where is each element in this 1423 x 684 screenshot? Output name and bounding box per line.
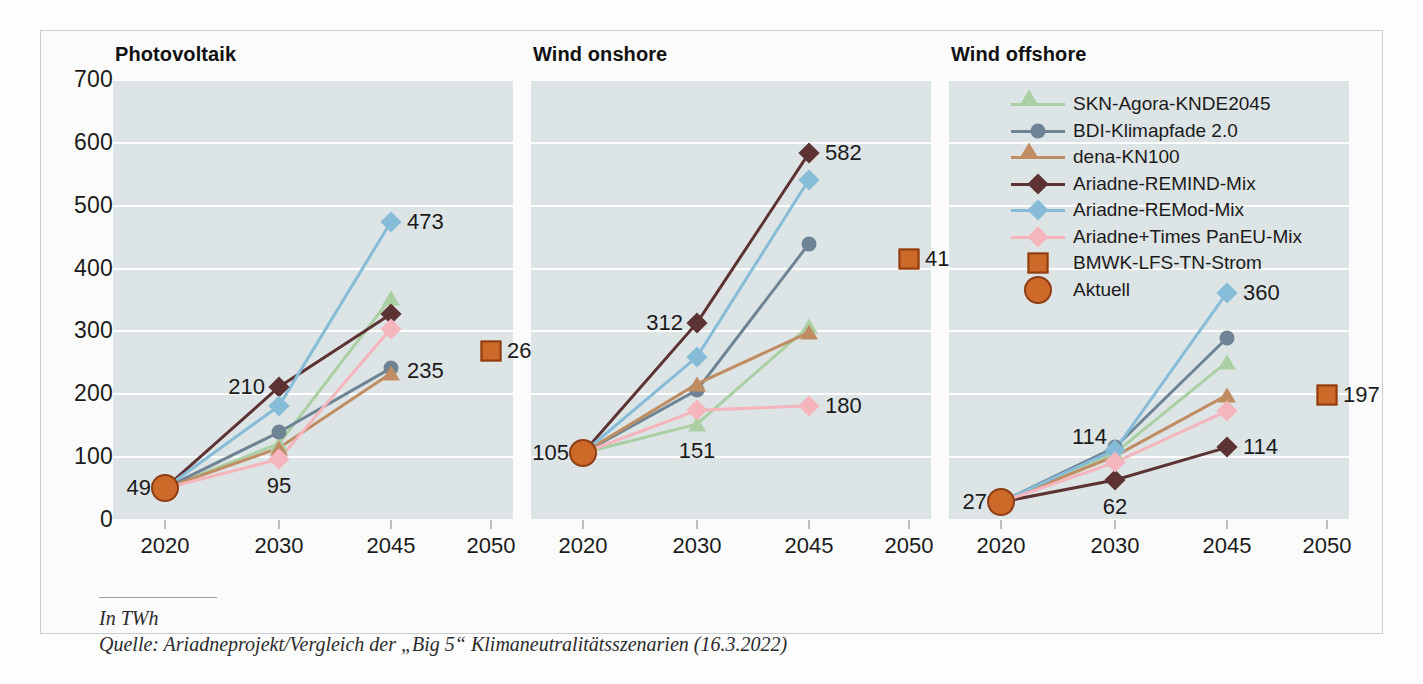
legend-key	[1009, 227, 1067, 247]
x-axis-tickmark	[582, 520, 584, 529]
legend-item-7[interactable]: Aktuell	[1009, 277, 1339, 304]
data-point-triangle	[1218, 354, 1236, 369]
data-point-square	[899, 249, 920, 270]
legend-key	[1009, 174, 1067, 194]
x-axis-tickmark	[1114, 520, 1116, 529]
x-axis-tickmark	[808, 520, 810, 529]
legend: SKN-Agora-KNDE2045BDI-Klimapfade 2.0dena…	[1009, 91, 1339, 303]
data-label: 105	[532, 440, 569, 466]
legend-key	[1009, 280, 1067, 300]
chart-panel-0: Photovoltaik4921095473235268202020302045…	[113, 31, 513, 633]
legend-label: Ariadne-REMIND-Mix	[1067, 173, 1256, 195]
x-axis-tick: 2030	[255, 533, 304, 559]
data-point-square	[1028, 253, 1049, 274]
data-label: 197	[1343, 382, 1380, 408]
legend-item-3[interactable]: Ariadne-REMIND-Mix	[1009, 171, 1339, 198]
legend-key	[1009, 253, 1067, 273]
data-point-circle	[272, 425, 287, 440]
data-point-triangle	[800, 325, 818, 340]
x-axis-tick: 2050	[1303, 533, 1352, 559]
data-label: 62	[1103, 494, 1127, 520]
x-axis-tick: 2030	[673, 533, 722, 559]
plot-area: 105312151582180413	[531, 79, 931, 519]
legend-label: SKN-Agora-KNDE2045	[1067, 93, 1270, 115]
x-axis-tickmark	[1000, 520, 1002, 529]
legend-label: BMWK-LFS-TN-Strom	[1067, 252, 1262, 274]
data-point-triangle	[1020, 143, 1038, 158]
data-point-actual	[569, 439, 597, 467]
data-point-triangle	[382, 366, 400, 381]
data-label: 210	[228, 374, 265, 400]
panel-title: Photovoltaik	[115, 43, 236, 66]
plot-area: 4921095473235268	[113, 79, 513, 519]
data-label: 312	[646, 310, 683, 336]
data-label: 114	[1072, 424, 1107, 450]
data-label: 235	[407, 358, 444, 384]
x-axis-tickmark	[1326, 520, 1328, 529]
x-axis-tickmark	[390, 520, 392, 529]
x-axis-tick: 2045	[367, 533, 416, 559]
x-axis-tick: 2020	[141, 533, 190, 559]
legend-label: Aktuell	[1067, 279, 1130, 301]
legend-item-1[interactable]: BDI-Klimapfade 2.0	[1009, 118, 1339, 145]
x-axis-tick: 2045	[1203, 533, 1252, 559]
legend-item-2[interactable]: dena-KN100	[1009, 144, 1339, 171]
series-lines	[113, 79, 513, 519]
data-label: 473	[407, 209, 444, 235]
legend-item-5[interactable]: Ariadne+Times PanEU-Mix	[1009, 224, 1339, 251]
x-axis-tick: 2020	[977, 533, 1026, 559]
data-point-circle	[1220, 330, 1235, 345]
x-axis: 2020203020452050	[949, 520, 1349, 564]
x-axis-tick: 2020	[559, 533, 608, 559]
data-point-diamond	[1027, 226, 1048, 247]
legend-label: Ariadne-REMod-Mix	[1067, 199, 1244, 221]
legend-item-4[interactable]: Ariadne-REMod-Mix	[1009, 197, 1339, 224]
chart-page: 7006005004003002001000 Photovoltaik49210…	[0, 0, 1423, 684]
x-axis-tickmark	[278, 520, 280, 529]
x-axis-tick: 2050	[885, 533, 934, 559]
legend-label: dena-KN100	[1067, 146, 1180, 168]
x-axis-tick: 2030	[1091, 533, 1140, 559]
legend-key	[1009, 94, 1067, 114]
x-axis-tickmark	[1226, 520, 1228, 529]
legend-key	[1009, 147, 1067, 167]
x-axis: 2020203020452050	[113, 520, 513, 564]
footer-source: Quelle: Ariadneprojekt/Vergleich der „Bi…	[99, 633, 787, 656]
data-label: 27	[963, 489, 987, 515]
data-label: 151	[679, 438, 716, 464]
data-label: 95	[267, 473, 291, 499]
x-axis-tickmark	[908, 520, 910, 529]
footer-unit: In TWh	[99, 607, 158, 630]
data-point-actual	[1024, 276, 1052, 304]
x-axis-tickmark	[164, 520, 166, 529]
legend-key	[1009, 200, 1067, 220]
data-point-diamond	[1027, 173, 1048, 194]
data-point-diamond	[1027, 200, 1048, 221]
data-point-square	[1317, 385, 1338, 406]
chart-frame: 7006005004003002001000 Photovoltaik49210…	[40, 30, 1383, 634]
data-label: 180	[825, 393, 862, 419]
data-point-circle	[1031, 123, 1046, 138]
legend-item-0[interactable]: SKN-Agora-KNDE2045	[1009, 91, 1339, 118]
data-point-triangle	[688, 376, 706, 391]
data-point-triangle	[1020, 90, 1038, 105]
legend-label: BDI-Klimapfade 2.0	[1067, 120, 1238, 142]
data-label: 49	[127, 475, 151, 501]
data-label: 114	[1243, 434, 1278, 460]
chart-panel-1: Wind onshore1053121515821804132020203020…	[531, 31, 931, 633]
data-point-circle	[802, 236, 817, 251]
footer-rule	[99, 597, 217, 598]
data-label: 582	[825, 140, 862, 166]
panel-title: Wind offshore	[951, 43, 1087, 66]
data-point-actual	[987, 488, 1015, 516]
x-axis-tick: 2045	[785, 533, 834, 559]
x-axis-tickmark	[696, 520, 698, 529]
legend-label: Ariadne+Times PanEU-Mix	[1067, 226, 1302, 248]
legend-key	[1009, 121, 1067, 141]
x-axis: 2020203020452050	[531, 520, 931, 564]
data-point-actual	[151, 474, 179, 502]
data-point-square	[481, 340, 502, 361]
x-axis-tickmark	[490, 520, 492, 529]
legend-item-6[interactable]: BMWK-LFS-TN-Strom	[1009, 250, 1339, 277]
panel-title: Wind onshore	[533, 43, 667, 66]
